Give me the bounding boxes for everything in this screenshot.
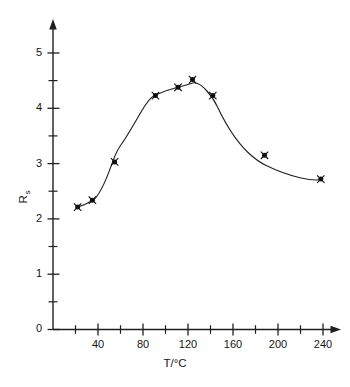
- data-point: [74, 203, 81, 210]
- x-tick-label-40: 40: [92, 338, 104, 350]
- y-tick-label-0: 0: [36, 322, 42, 334]
- x-tick-label-160: 160: [224, 338, 242, 350]
- x-axis: [53, 326, 341, 334]
- data-point: [89, 197, 96, 204]
- data-curve: [78, 83, 321, 208]
- y-tick-label-2: 2: [36, 212, 42, 224]
- svg-text:Rs: Rs: [17, 191, 32, 204]
- y-axis: [49, 19, 57, 330]
- y-axis-title: Rs: [17, 191, 32, 204]
- x-axis-title: T/°C: [163, 357, 186, 369]
- y-axis-title-base: R: [17, 195, 29, 203]
- y-axis-title-subscript: s: [23, 191, 32, 195]
- y-tick-label-3: 3: [36, 157, 42, 169]
- y-tick-label-5: 5: [36, 46, 42, 58]
- data-points: [74, 76, 325, 211]
- data-point: [317, 175, 324, 182]
- data-point: [261, 152, 268, 159]
- data-point: [152, 92, 159, 99]
- x-tick-label-120: 120: [179, 338, 197, 350]
- y-tick-label-4: 4: [36, 101, 42, 113]
- plot-canvas: 0 1 2 3 4 5 40 80 120 160 200 240 T/°C: [0, 0, 350, 387]
- chart-figure: 0 1 2 3 4 5 40 80 120 160 200 240 T/°C: [0, 0, 350, 387]
- x-tick-label-200: 200: [269, 338, 287, 350]
- y-tick-label-1: 1: [36, 267, 42, 279]
- y-axis-arrow-icon: [49, 19, 57, 30]
- x-axis-arrow-icon: [331, 326, 342, 334]
- data-point: [174, 84, 181, 91]
- x-tick-label-240: 240: [314, 338, 332, 350]
- x-tick-label-80: 80: [137, 338, 149, 350]
- data-point: [189, 76, 196, 83]
